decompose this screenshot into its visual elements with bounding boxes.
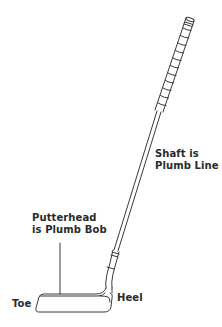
putterhead-label-line-2: is Plumb Bob [32, 224, 107, 236]
shaft-label-line-1: Shaft is [155, 148, 219, 160]
heel-label: Heel [117, 292, 143, 304]
putterhead-label-line-1: Putterhead [32, 212, 107, 224]
toe-label: Toe [12, 298, 31, 310]
shaft [106, 111, 161, 288]
shaft-label: Shaft is Plumb Line [155, 148, 219, 172]
shaft-label-line-2: Plumb Line [155, 160, 219, 172]
grip [155, 17, 195, 112]
putterhead-label: Putterhead is Plumb Bob [32, 212, 107, 236]
putter-head [36, 288, 112, 312]
